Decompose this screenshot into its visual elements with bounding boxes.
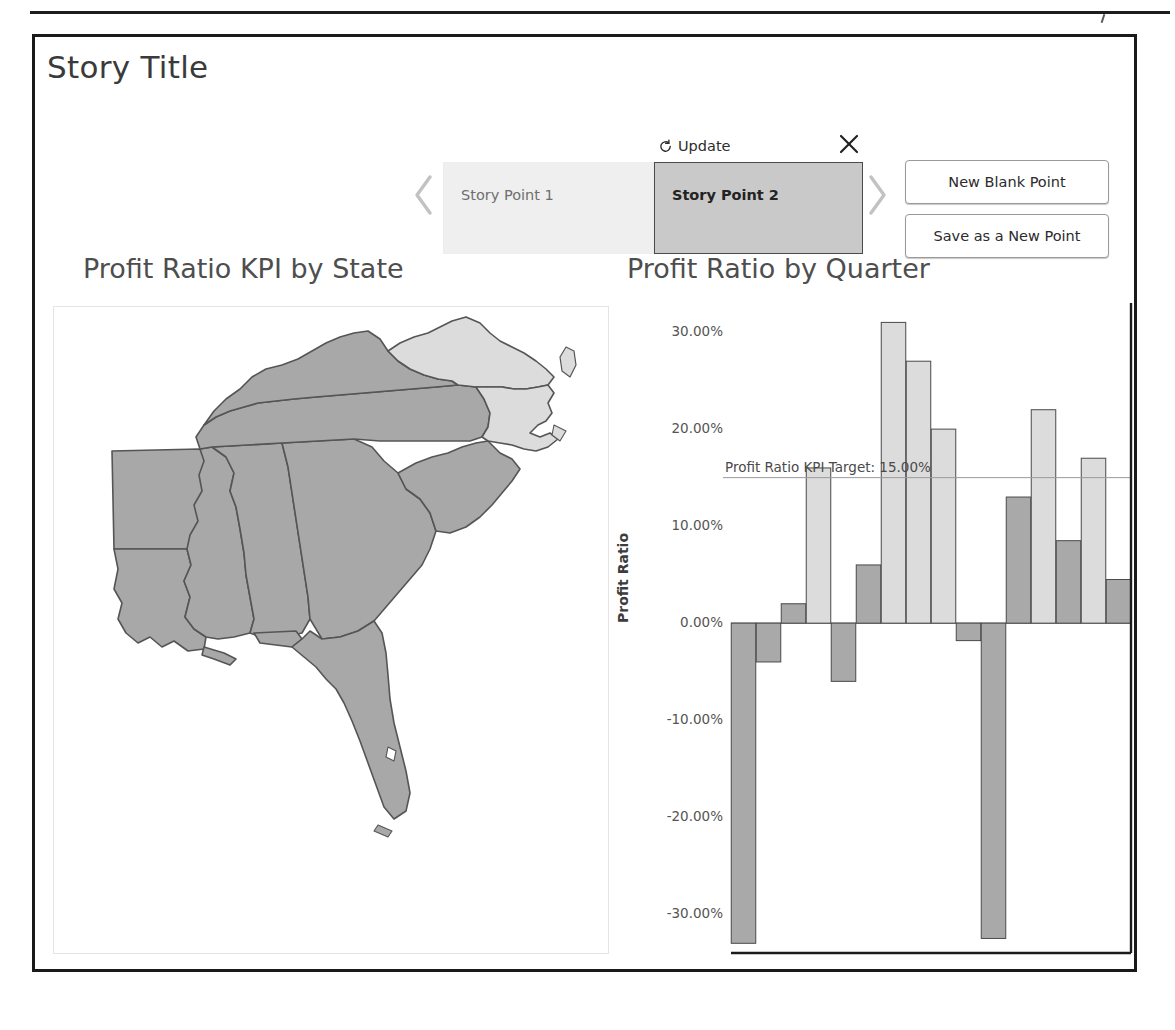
story-title: Story Title	[47, 49, 208, 85]
bar[interactable]	[756, 623, 781, 662]
reference-line-label: Profit Ratio KPI Target: 15.00%	[725, 459, 931, 475]
new-blank-point-button[interactable]: New Blank Point	[905, 160, 1109, 204]
story-point-card-2[interactable]: Story Point 2	[654, 162, 863, 254]
close-icon[interactable]	[838, 133, 860, 155]
y-tick-label: -10.00%	[667, 711, 723, 727]
state-florida	[292, 621, 410, 819]
southeast-us-map	[54, 307, 609, 954]
bar[interactable]	[1006, 497, 1031, 623]
page-scan-tick	[1101, 14, 1106, 23]
map-visualization[interactable]	[53, 306, 609, 954]
story-frame: Story Title Story Point 1 Update Story	[32, 34, 1137, 972]
bar[interactable]	[1081, 458, 1106, 623]
dashboard: Profit Ratio KPI by State Profit Ratio b…	[35, 253, 1134, 969]
bar[interactable]	[981, 623, 1006, 938]
bar[interactable]	[931, 429, 956, 623]
y-axis-tick-labels: 30.00%20.00%10.00%0.00%-10.00%-20.00%-30…	[611, 298, 723, 963]
update-story-point-button[interactable]: Update	[658, 135, 731, 157]
story-action-buttons: New Blank Point Save as a New Point	[905, 160, 1113, 258]
state-virginia-eastern-shore	[560, 347, 576, 377]
bar[interactable]	[956, 623, 981, 640]
bar[interactable]	[731, 623, 756, 943]
y-tick-label: 10.00%	[672, 517, 723, 533]
update-label: Update	[678, 138, 731, 154]
save-as-new-point-button[interactable]: Save as a New Point	[905, 214, 1109, 258]
bar[interactable]	[831, 623, 856, 681]
bar[interactable]	[856, 565, 881, 623]
bar[interactable]	[906, 361, 931, 623]
story-point-label: Story Point 2	[672, 187, 779, 203]
chevron-right-icon[interactable]	[865, 173, 889, 217]
state-florida-keys	[374, 825, 392, 837]
state-louisiana-delta	[202, 647, 236, 665]
y-tick-label: -30.00%	[667, 905, 723, 921]
bar[interactable]	[781, 604, 806, 623]
bar[interactable]	[1056, 541, 1081, 623]
chevron-left-icon[interactable]	[412, 173, 436, 217]
bar[interactable]	[806, 468, 831, 623]
bar-chart-plot[interactable]: 30.00%20.00%10.00%0.00%-10.00%-20.00%-30…	[611, 298, 1134, 963]
refresh-icon	[658, 139, 673, 154]
y-tick-label: 30.00%	[672, 323, 723, 339]
bar[interactable]	[1106, 579, 1131, 623]
y-tick-label: -20.00%	[667, 808, 723, 824]
story-point-navigator: Story Point 1 Update Story Point 2 New B	[375, 95, 1075, 225]
bar[interactable]	[1031, 410, 1056, 623]
y-tick-label: 0.00%	[680, 614, 723, 630]
story-point-label: Story Point 1	[461, 187, 554, 203]
map-viz-title: Profit Ratio KPI by State	[83, 253, 404, 284]
y-tick-label: 20.00%	[672, 420, 723, 436]
page-top-rule	[30, 11, 1170, 14]
bar-viz-title: Profit Ratio by Quarter	[627, 253, 930, 284]
story-point-card-1[interactable]: Story Point 1	[443, 162, 654, 254]
bar-chart-visualization[interactable]: Profit Ratio 30.00%20.00%10.00%0.00%-10.…	[611, 298, 1134, 963]
